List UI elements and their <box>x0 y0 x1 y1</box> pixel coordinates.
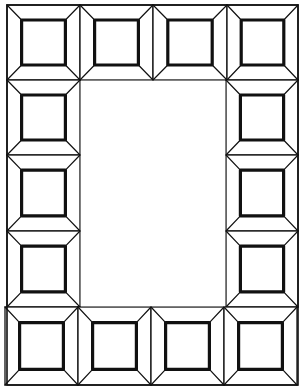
tile-inner-square <box>239 323 283 370</box>
beveled-tile <box>7 155 80 231</box>
beveled-tile <box>5 307 78 385</box>
beveled-tile <box>226 231 298 307</box>
tile-inner-square <box>166 323 210 370</box>
tile-inner-square <box>22 246 66 292</box>
beveled-tile <box>226 80 298 155</box>
tile-inner-square <box>240 170 283 216</box>
tile-inner-square <box>22 20 66 65</box>
beveled-tile <box>153 5 227 80</box>
tile-inner-square <box>168 20 212 65</box>
tile-inner-square <box>93 323 137 370</box>
beveled-tile <box>227 5 298 80</box>
tile-inner-square <box>22 170 66 216</box>
beveled-tile <box>224 307 297 385</box>
beveled-tile <box>80 5 153 80</box>
beveled-tile <box>226 155 298 231</box>
frame-svg <box>0 0 305 391</box>
beveled-tile <box>7 5 80 80</box>
beveled-tile <box>151 307 224 385</box>
tile-frame-drawing <box>0 0 305 391</box>
beveled-tile <box>78 307 151 385</box>
beveled-tile <box>7 231 80 307</box>
tile-inner-square <box>20 323 64 370</box>
tile-inner-square <box>240 246 283 292</box>
tile-inner-square <box>241 20 284 65</box>
tile-inner-square <box>95 20 139 65</box>
center-opening <box>81 81 225 306</box>
tile-inner-square <box>240 95 283 140</box>
tile-inner-square <box>22 95 66 140</box>
beveled-tile <box>7 80 80 155</box>
